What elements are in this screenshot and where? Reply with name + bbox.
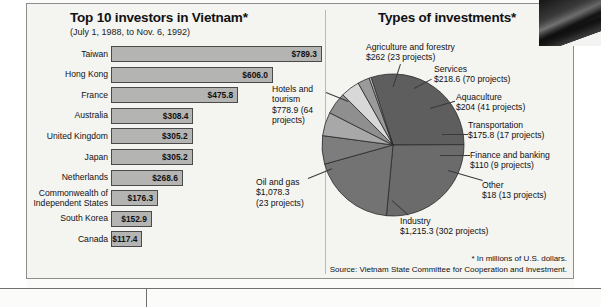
bar-fill: $606.0	[111, 67, 273, 83]
pie-label-transportation: Transportation $175.8 (17 projects)	[468, 120, 544, 141]
bar-category-label-text: Netherlands	[62, 173, 108, 183]
bar-category-label-text: Canada	[78, 235, 108, 245]
bar-category-label: Japan	[32, 148, 108, 167]
bar-fill: $475.8	[111, 87, 238, 103]
bar-row: Japan$305.2	[32, 148, 294, 167]
bar-value-label: $305.2	[162, 131, 188, 141]
bar-value-label: $606.0	[242, 70, 268, 80]
bar-track: $268.6	[111, 170, 183, 186]
bar-category-label-text: Australia	[75, 111, 108, 121]
bar-value-label: $117.4	[112, 234, 137, 244]
pie-chart-plot	[320, 72, 466, 218]
bar-fill: $308.4	[111, 108, 193, 124]
bar-category-label: Taiwan	[32, 45, 108, 64]
bar-category-label: Canada	[32, 230, 108, 249]
bar-value-label: $308.4	[163, 111, 189, 121]
pie-label-aquaculture: Aquaculture $204 (41 projects)	[456, 92, 525, 113]
pie-label-oil-and-gas: Oil and gas $1,078.3 (23 projects)	[256, 177, 304, 208]
pie-label-other: Other $18 (13 projects)	[482, 180, 547, 201]
leader-line-finance	[440, 155, 470, 156]
bar-track: $152.9	[111, 211, 152, 227]
bar-fill: $268.6	[111, 170, 183, 186]
figure-source: Source: Vietnam State Committee for Coop…	[330, 265, 567, 274]
bar-chart-title: Top 10 investors in Vietnam*	[70, 10, 248, 25]
bar-category-label: France	[32, 86, 108, 105]
bar-fill: $152.9	[111, 211, 152, 227]
bar-category-label: United Kingdom	[32, 127, 108, 146]
bar-row: Netherlands$268.6	[32, 169, 294, 188]
leader-line-transportation	[442, 134, 468, 135]
bar-fill: $305.2	[111, 128, 193, 144]
bar-row: Australia$308.4	[32, 107, 294, 126]
bar-value-label: $176.3	[128, 193, 154, 203]
bar-row: South Korea$152.9	[32, 210, 294, 229]
bar-category-label: Australia	[32, 107, 108, 126]
scan-artifact-corner-overlay	[539, 0, 601, 46]
bar-value-label: $152.9	[121, 214, 147, 224]
bar-value-label: $268.6	[152, 173, 178, 183]
bar-fill: $789.3	[111, 46, 322, 62]
bar-category-label: South Korea	[32, 210, 108, 229]
bar-row: Taiwan$789.3	[32, 45, 294, 64]
bar-track: $606.0	[111, 67, 273, 83]
page-bottom-rule	[0, 288, 601, 289]
bar-fill: $176.3	[111, 190, 158, 206]
pie-label-hotels-and-tourism: Hotels and tourism $778.9 (64 projects)	[272, 84, 313, 126]
bar-category-label-text: Taiwan	[81, 50, 108, 60]
bar-track: $475.8	[111, 87, 238, 103]
bar-category-label-text: Commonwealth of Independent States	[32, 189, 108, 208]
bar-track: $117.4	[111, 231, 142, 247]
bar-track: $305.2	[111, 149, 193, 165]
page-bottom-tick	[146, 288, 147, 307]
bar-value-label: $475.8	[208, 90, 234, 100]
pie-svg	[320, 72, 466, 218]
bar-category-label-text: United Kingdom	[47, 132, 108, 142]
bar-row: Canada$117.4	[32, 230, 294, 249]
bar-fill: $117.4	[111, 231, 142, 247]
bar-chart-subtitle: (July 1, 1988, to Nov. 6, 1992)	[70, 27, 190, 37]
bar-category-label-text: France	[81, 91, 108, 101]
bar-category-label-text: Japan	[85, 153, 108, 163]
bar-category-label-text: Hong Kong	[65, 70, 108, 80]
bar-row: Hong Kong$606.0	[32, 66, 294, 85]
scanned-page: Top 10 investors in Vietnam* (July 1, 19…	[0, 0, 601, 307]
bar-chart-plot: Taiwan$789.3Hong Kong$606.0France$475.8A…	[32, 45, 294, 245]
bar-track: $308.4	[111, 108, 193, 124]
bar-category-label: Hong Kong	[32, 66, 108, 85]
bar-row: France$475.8	[32, 86, 294, 105]
bar-track: $789.3	[111, 46, 322, 62]
pie-label-industry: Industry $1,215.3 (302 projects)	[400, 216, 488, 237]
bar-category-label: Netherlands	[32, 169, 108, 188]
bar-value-label: $789.3	[291, 49, 317, 59]
pie-label-agriculture-and-forestry: Agriculture and forestry $262 (23 projec…	[366, 42, 455, 63]
bar-fill: $305.2	[111, 149, 193, 165]
bar-value-label: $305.2	[162, 152, 188, 162]
bar-row: Commonwealth of Independent States$176.3	[32, 189, 294, 208]
page-margin-left	[0, 0, 27, 288]
pie-chart-title: Types of investments*	[378, 10, 516, 25]
pie-label-services: Services $218.6 (70 projects)	[434, 64, 510, 85]
page-margin-right	[574, 46, 601, 288]
bar-row: United Kingdom$305.2	[32, 127, 294, 146]
figure-footnote: * In millions of U.S. dollars.	[471, 254, 567, 263]
bar-track: $176.3	[111, 190, 158, 206]
bar-category-label-text: South Korea	[60, 214, 108, 224]
bar-track: $305.2	[111, 128, 193, 144]
pie-label-finance-and-banking: Finance and banking $110 (9 projects)	[470, 150, 550, 171]
bar-category-label: Commonwealth of Independent States	[32, 189, 108, 208]
